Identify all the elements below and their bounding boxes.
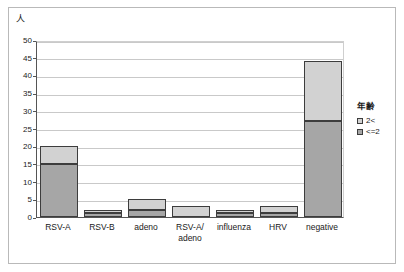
y-axis-tick-mark — [33, 111, 36, 112]
legend-items: 2<<=2 — [357, 116, 401, 136]
x-axis-category-labels: RSV-ARSV-BadenoRSV-A/ adenoinfluenzaHRVn… — [36, 222, 344, 256]
legend-item[interactable]: <=2 — [357, 127, 401, 136]
bar-segment-low-age[interactable] — [216, 213, 254, 217]
x-axis-category-label: RSV-A/ adeno — [168, 222, 212, 244]
bar-group[interactable] — [260, 40, 298, 217]
chart-figure: 人 05101520253035404550 RSV-ARSV-BadenoRS… — [0, 0, 404, 272]
y-axis-tick-labels: 05101520253035404550 — [12, 41, 32, 218]
y-axis-unit-label: 人 — [16, 14, 25, 25]
y-axis-tick-mark — [33, 200, 36, 201]
y-axis-tick-mark — [33, 147, 36, 148]
bar-segment-high-age[interactable] — [40, 146, 78, 164]
x-axis-category-label: adeno — [124, 222, 168, 233]
bar-segment-low-age[interactable] — [40, 164, 78, 217]
bar-segment-low-age[interactable] — [128, 210, 166, 217]
bar-segment-low-age[interactable] — [84, 213, 122, 217]
y-axis-tick-label: 30 — [23, 108, 32, 116]
bar-group[interactable] — [40, 40, 78, 217]
y-axis-tick-label: 50 — [23, 37, 32, 45]
bar-group[interactable] — [304, 40, 342, 217]
bar-segment-low-age[interactable] — [260, 213, 298, 217]
y-axis-tick-label: 40 — [23, 72, 32, 80]
y-axis-tick-mark — [33, 58, 36, 59]
y-axis-tick-label: 5 — [28, 196, 32, 204]
legend-item-label: <=2 — [366, 127, 380, 136]
y-axis-tick-label: 20 — [23, 143, 32, 151]
legend-swatch-icon — [357, 129, 363, 135]
bar-group[interactable] — [172, 40, 210, 217]
bar-segment-high-age[interactable] — [84, 210, 122, 214]
y-axis-tick-label: 45 — [23, 55, 32, 63]
y-axis-tick-mark — [33, 218, 36, 219]
bar-group[interactable] — [84, 40, 122, 217]
y-axis-tick-mark — [33, 182, 36, 183]
bar-group[interactable] — [128, 40, 166, 217]
x-axis-category-label: influenza — [212, 222, 256, 233]
legend-swatch-icon — [357, 118, 363, 124]
bar-segment-high-age[interactable] — [216, 210, 254, 214]
y-axis-tick-mark — [33, 164, 36, 165]
x-axis-category-label: RSV-A — [36, 222, 80, 233]
legend-title: 年齢 — [357, 101, 401, 112]
bar-segment-high-age[interactable] — [128, 199, 166, 210]
bar-group[interactable] — [216, 40, 254, 217]
bar-segment-high-age[interactable] — [260, 206, 298, 213]
y-axis-tick-mark — [33, 76, 36, 77]
y-axis-tick-mark — [33, 129, 36, 130]
x-axis-category-label: RSV-B — [80, 222, 124, 233]
y-axis-tick-label: 0 — [28, 214, 32, 222]
legend-item-label: 2< — [366, 116, 375, 125]
legend: 年齢 2<<=2 — [357, 101, 401, 138]
y-axis-tick-mark — [33, 94, 36, 95]
y-axis-tick-mark — [33, 41, 36, 42]
bar-segment-low-age[interactable] — [304, 121, 342, 217]
bar-segment-high-age[interactable] — [172, 206, 210, 217]
plot-area — [36, 41, 344, 218]
y-axis-tick-label: 25 — [23, 126, 32, 134]
legend-item[interactable]: 2< — [357, 116, 401, 125]
x-axis-category-label: HRV — [256, 222, 300, 233]
bar-segment-high-age[interactable] — [304, 61, 342, 121]
y-axis-tick-label: 10 — [23, 179, 32, 187]
y-axis-tick-label: 15 — [23, 161, 32, 169]
x-axis-category-label: negative — [300, 222, 344, 233]
y-axis-tick-label: 35 — [23, 90, 32, 98]
